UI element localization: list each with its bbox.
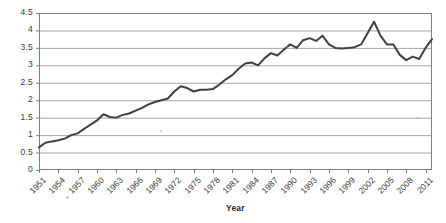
y-axis-tick-label: 0 bbox=[3, 164, 33, 174]
x-axis-title: Year bbox=[226, 203, 245, 213]
x-tick-marks bbox=[40, 170, 427, 173]
line-chart: 00.511.522.533.544.519511954195719601963… bbox=[0, 0, 446, 223]
y-axis-tick-label: 1 bbox=[3, 129, 33, 139]
y-axis-tick-label: 3 bbox=[3, 59, 33, 69]
scan-artifact bbox=[66, 196, 69, 199]
y-axis-tick-label: 0.5 bbox=[3, 147, 33, 157]
scan-artifact bbox=[286, 46, 288, 48]
y-axis-tick-label: 2.5 bbox=[3, 77, 33, 87]
plot-background bbox=[39, 13, 432, 170]
y-axis-tick-label: 3.5 bbox=[3, 42, 33, 52]
y-axis-tick-label: 4 bbox=[3, 24, 33, 34]
scan-artifact bbox=[160, 130, 162, 132]
scan-artifact bbox=[417, 117, 419, 119]
y-axis-tick-label: 1.5 bbox=[3, 112, 33, 122]
y-axis-tick-label: 4.5 bbox=[3, 7, 33, 17]
y-axis-tick-label: 2 bbox=[3, 94, 33, 104]
